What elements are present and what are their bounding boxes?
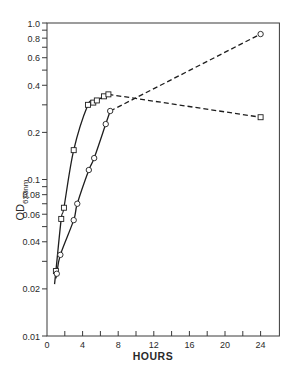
circle-data-point bbox=[86, 167, 91, 172]
square-data-point bbox=[258, 115, 263, 120]
squares-dashed-extension bbox=[108, 94, 260, 117]
y-tick-label: 0.8 bbox=[27, 34, 40, 44]
circle-data-point bbox=[75, 201, 80, 206]
y-tick-label: 1.0 bbox=[27, 19, 40, 29]
x-tick-label: 24 bbox=[256, 340, 266, 350]
circle-data-point bbox=[54, 271, 59, 276]
x-axis-label: HOURS bbox=[133, 350, 173, 362]
square-data-point bbox=[61, 205, 66, 210]
circle-data-point bbox=[58, 252, 63, 257]
y-tick-label: 0.01 bbox=[22, 332, 40, 342]
square-data-point bbox=[71, 148, 76, 153]
square-data-point bbox=[85, 102, 90, 107]
x-tick-label: 16 bbox=[184, 340, 194, 350]
x-axis-ticks: 04812162024 bbox=[44, 331, 265, 350]
square-data-point bbox=[106, 92, 111, 97]
series-lines bbox=[55, 34, 261, 284]
y-tick-label: 0.04 bbox=[22, 237, 40, 247]
circles-dashed-extension bbox=[110, 34, 260, 111]
axes bbox=[47, 23, 279, 336]
x-tick-label: 12 bbox=[149, 340, 159, 350]
y-axis-label-main: OD bbox=[14, 204, 26, 221]
x-tick-label: 0 bbox=[44, 340, 49, 350]
square-data-point bbox=[59, 216, 64, 221]
plot-frame bbox=[47, 23, 279, 336]
y-tick-label: 0.6 bbox=[27, 53, 40, 63]
x-tick-label: 20 bbox=[220, 340, 230, 350]
x-tick-label: 8 bbox=[116, 340, 121, 350]
circle-data-point bbox=[103, 121, 108, 126]
series-markers bbox=[53, 31, 263, 276]
square-data-point bbox=[94, 98, 99, 103]
y-tick-label: 0.4 bbox=[27, 81, 40, 91]
y-tick-label: 0.02 bbox=[22, 284, 40, 294]
circle-data-point bbox=[107, 108, 112, 113]
growth-curve-chart: 1.00.80.60.40.20.10.080.060.040.020.01 0… bbox=[0, 0, 296, 378]
circle-data-point bbox=[258, 31, 263, 36]
x-tick-label: 4 bbox=[80, 340, 85, 350]
y-axis-label-subscript: 620nm bbox=[21, 179, 30, 204]
y-tick-label: 0.2 bbox=[27, 128, 40, 138]
circles-growth-curve bbox=[56, 111, 110, 278]
circle-data-point bbox=[91, 155, 96, 160]
chart-canvas: 1.00.80.60.40.20.10.080.060.040.020.01 0… bbox=[0, 0, 296, 378]
circle-data-point bbox=[71, 217, 76, 222]
